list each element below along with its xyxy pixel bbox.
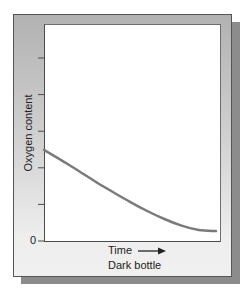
oxygen-curve [44, 150, 216, 231]
chart-subtitle: Dark bottle [108, 259, 161, 271]
x-axis-label-text: Time [108, 244, 132, 256]
right-arrow-icon [138, 247, 166, 255]
x-axis-label: Time [108, 244, 166, 256]
y-axis-label: Oxygen content [22, 94, 34, 171]
y-axis-zero-label: 0 [30, 234, 36, 246]
